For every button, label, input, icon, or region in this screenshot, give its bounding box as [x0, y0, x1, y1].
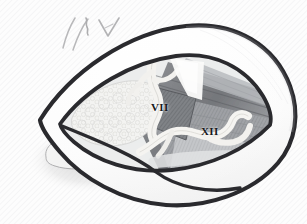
- anatomical-figure: VII XII: [0, 0, 307, 224]
- illustration-canvas: [0, 0, 307, 224]
